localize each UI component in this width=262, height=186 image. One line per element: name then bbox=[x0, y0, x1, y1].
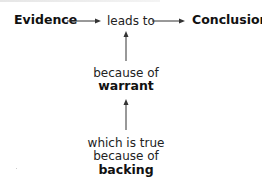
arrow-warrant-to-leads-to bbox=[124, 31, 129, 61]
arrows-layer bbox=[0, 0, 262, 186]
arrow-backing-to-warrant bbox=[124, 99, 129, 130]
stray-dot bbox=[16, 168, 17, 169]
arrow-evidence-to-leads-to bbox=[67, 19, 101, 24]
arrow-leads-to-to-conclusion bbox=[152, 19, 185, 24]
